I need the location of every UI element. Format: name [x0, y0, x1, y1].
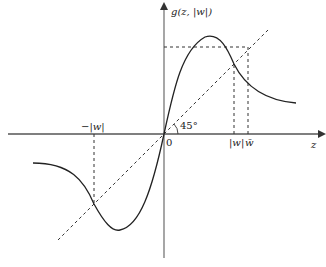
y-axis-label: g(z, |w|) [171, 7, 212, 17]
diagram-canvas: g(z, |w|) z 0 45° −|w| |w| w̄ [0, 0, 326, 267]
x-axis-label: z [311, 140, 316, 150]
neg-w-label: −|w| [81, 122, 105, 132]
w-label: |w| [229, 138, 244, 148]
angle-label: 45° [180, 121, 198, 131]
origin-label: 0 [166, 138, 172, 148]
wbar-label: w̄ [245, 138, 254, 148]
plot-svg [0, 0, 326, 267]
angle-arc [174, 124, 178, 134]
